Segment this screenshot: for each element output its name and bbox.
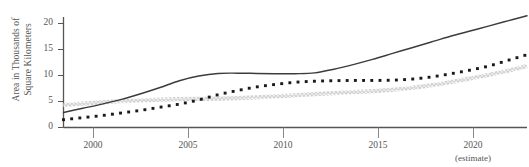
x-tick-label-2020: 2020 xyxy=(450,140,496,150)
plot-area xyxy=(63,16,529,127)
x-tick-label-2005: 2005 xyxy=(165,140,211,150)
y-tick-marks xyxy=(58,24,64,128)
x-tick-label-2015: 2015 xyxy=(355,140,401,150)
x-tick-label-2000: 2000 xyxy=(70,140,116,150)
y-tick-label-20: 20 xyxy=(31,17,53,27)
x-tick-label-2010: 2010 xyxy=(260,140,306,150)
y-tick-label-0: 0 xyxy=(31,121,53,131)
estimate-annotation: (estimate) xyxy=(443,153,503,163)
y-tick-label-10: 10 xyxy=(31,69,53,79)
chart-figure: Area in Thousands of Square Kilometers 0… xyxy=(0,0,529,167)
y-tick-label-15: 15 xyxy=(31,43,53,53)
x-tick-marks xyxy=(94,128,474,139)
y-axis-title-line1: Area in Thousands of xyxy=(11,0,23,122)
y-tick-label-5: 5 xyxy=(31,95,53,105)
